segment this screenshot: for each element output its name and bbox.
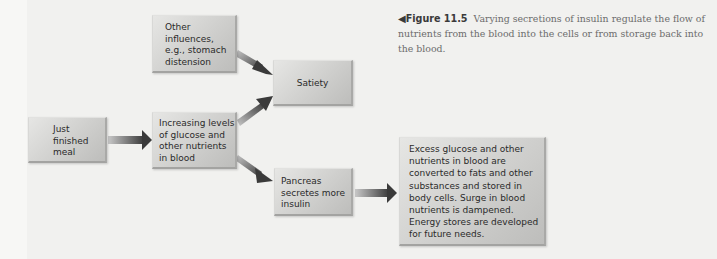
box-satiety-text: Satiety bbox=[274, 78, 351, 90]
box-just-finished-meal: Just finished meal bbox=[28, 117, 107, 163]
arrow-meal-to-increasing bbox=[108, 130, 152, 150]
arrow-increasing-to-satiety bbox=[237, 96, 273, 126]
arrow-other-to-satiety bbox=[235, 50, 273, 75]
box-excess-glucose-text: Excess glucose and other nutrients in bl… bbox=[409, 143, 538, 241]
pointer-left-icon: ◀ bbox=[398, 13, 406, 24]
box-excess-glucose: Excess glucose and other nutrients in bl… bbox=[399, 137, 546, 246]
box-pancreas: Pancreas secretes more insulin bbox=[274, 168, 353, 216]
box-satiety: Satiety bbox=[273, 60, 353, 106]
box-pancreas-text: Pancreas secretes more insulin bbox=[281, 176, 345, 211]
box-increasing-levels: Increasing levels of glucose and other n… bbox=[152, 112, 237, 169]
figure-caption: ◀Figure 11.5 Varying secretions of insul… bbox=[398, 11, 716, 56]
box-just-finished-meal-text: Just finished meal bbox=[53, 124, 89, 159]
figure-number: Figure 11.5 bbox=[406, 13, 468, 24]
box-other-influences: Other influences, e.g., stomach distensi… bbox=[152, 15, 237, 73]
box-other-influences-text: Other influences, e.g., stomach distensi… bbox=[165, 22, 226, 68]
arrow-increasing-to-pancreas bbox=[235, 155, 273, 183]
box-increasing-levels-text: Increasing levels of glucose and other n… bbox=[159, 118, 234, 164]
arrow-pancreas-to-excess bbox=[355, 183, 397, 203]
